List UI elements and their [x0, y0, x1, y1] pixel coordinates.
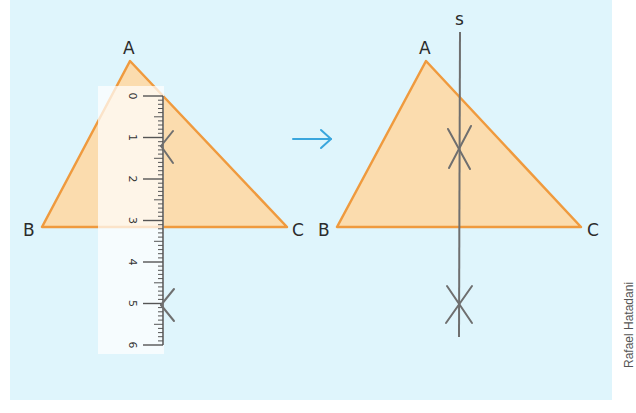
vertex-label-a-left: A [123, 38, 135, 58]
vertex-label-b-left: B [23, 220, 35, 240]
ruler-tick-label: 3 [126, 217, 139, 224]
vertex-label-b-right: B [318, 220, 330, 240]
ruler: 0123456 [98, 86, 164, 354]
ruler-tick-label: 4 [126, 259, 139, 266]
left-triangle-figure [42, 61, 287, 227]
line-label-s: s [455, 9, 464, 29]
transition-arrow-icon [293, 130, 331, 148]
vertex-label-a-right: A [419, 38, 431, 58]
ruler-tick-label: 5 [126, 300, 139, 307]
perpendicular-bisector-line-s [459, 32, 460, 337]
image-credit: Rafael Hatadani [622, 282, 636, 368]
ruler-tick-label: 1 [126, 134, 139, 141]
vertex-label-c-left: C [292, 220, 304, 240]
ruler-tick-label: 6 [126, 342, 139, 349]
left-triangle [42, 61, 287, 227]
vertex-label-c-right: C [587, 220, 599, 240]
ruler-tick-label: 0 [126, 93, 139, 100]
ruler-tick-label: 2 [126, 176, 139, 183]
